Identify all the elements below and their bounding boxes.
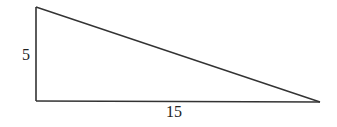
triangle-hypotenuse [36, 7, 320, 102]
triangle-base-side [36, 101, 320, 102]
diagram-canvas: 5 15 [0, 0, 337, 127]
height-label: 5 [22, 47, 30, 63]
base-label: 15 [166, 104, 182, 120]
